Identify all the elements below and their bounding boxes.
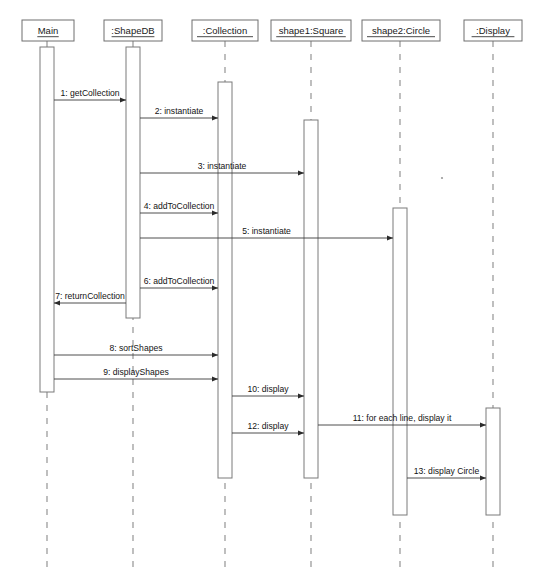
noise-speck [441,177,443,179]
message-arrowhead-12 [298,430,304,435]
message-arrowhead-9 [212,376,218,381]
message-label-5: 5: instantiate [242,226,291,236]
message-label-7: 7: returnCollection [55,291,125,301]
participant-header-shapedb[interactable]: :ShapeDB [104,20,162,41]
message-arrowhead-10 [298,393,304,398]
activations-layer [40,47,500,515]
message-arrowhead-4 [212,210,218,215]
activation-bar-square [304,120,318,478]
message-label-1: 1: getCollection [60,88,119,98]
message-label-2: 2: instantiate [155,106,204,116]
message-3: 3: instantiate [140,161,304,176]
message-label-3: 3: instantiate [198,161,247,171]
message-10: 10: display [232,384,304,399]
message-11: 11: for each line, display it [318,413,486,428]
message-arrowhead-2 [212,115,218,120]
message-label-11: 11: for each line, display it [353,413,452,423]
participant-header-main[interactable]: Main [22,20,74,41]
activation-bar-display [486,408,500,515]
participant-label-shapedb: :ShapeDB [111,25,154,36]
message-arrowhead-5 [387,235,393,240]
activation-bar-main [40,47,54,392]
message-arrowhead-3 [298,170,304,175]
participant-header-square[interactable]: shape1:Square [271,20,351,41]
participant-header-circle[interactable]: shape2:Circle [362,20,440,41]
message-4: 4: addToCollection [140,201,218,216]
sequence-diagram-canvas: 1: getCollection2: instantiate3: instant… [0,0,544,582]
participant-label-main: Main [38,25,59,36]
message-13: 13: display Circle [407,466,486,481]
participant-headers-layer: Main:ShapeDB:Collectionshape1:Squareshap… [22,20,522,41]
message-6: 6: addToCollection [140,276,218,291]
message-label-13: 13: display Circle [414,466,480,476]
message-arrowhead-7 [54,300,60,305]
participant-header-collection[interactable]: :Collection [192,20,258,41]
message-arrowhead-13 [480,475,486,480]
participant-label-display: :Display [476,25,510,36]
message-arrowhead-1 [120,97,126,102]
activation-bar-collection [218,82,232,478]
messages-layer: 1: getCollection2: instantiate3: instant… [54,88,486,481]
message-label-9: 9: displayShapes [103,367,168,377]
message-arrowhead-6 [212,285,218,290]
participant-label-circle: shape2:Circle [372,25,430,36]
participant-header-display[interactable]: :Display [464,20,522,41]
message-arrowhead-8 [212,352,218,357]
message-7: 7: returnCollection [54,291,126,306]
message-arrowhead-11 [480,422,486,427]
participant-label-square: shape1:Square [279,25,343,36]
lifelines-layer [47,41,493,570]
participant-label-collection: :Collection [203,25,247,36]
message-label-6: 6: addToCollection [144,276,215,286]
activation-bar-circle [393,208,407,515]
message-2: 2: instantiate [140,106,218,121]
sequence-diagram-svg: 1: getCollection2: instantiate3: instant… [0,0,544,582]
message-9: 9: displayShapes [54,367,218,382]
message-1: 1: getCollection [54,88,126,103]
message-8: 8: sortShapes [54,343,218,358]
message-label-12: 12: display [247,421,289,431]
message-label-10: 10: display [247,384,289,394]
activation-bar-shapedb [126,47,140,318]
message-5: 5: instantiate [140,226,393,241]
message-label-4: 4: addToCollection [144,201,215,211]
message-12: 12: display [232,421,304,436]
message-label-8: 8: sortShapes [109,343,162,353]
